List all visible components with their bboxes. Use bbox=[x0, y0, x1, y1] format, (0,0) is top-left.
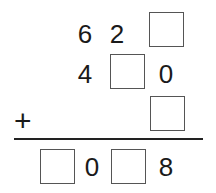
addend1-tens-digit: 2 bbox=[108, 21, 126, 47]
addend2-ones-digit: 0 bbox=[157, 61, 175, 87]
addend3-ones-blank-box[interactable] bbox=[150, 96, 185, 131]
addend1-hundreds-digit: 6 bbox=[76, 21, 94, 47]
result-tens-blank-box[interactable] bbox=[111, 149, 146, 184]
addend1-ones-blank-box[interactable] bbox=[149, 12, 184, 47]
result-thousands-blank-box[interactable] bbox=[40, 149, 75, 184]
result-ones-digit: 8 bbox=[157, 154, 175, 180]
sum-line-divider bbox=[14, 138, 203, 140]
plus-sign: + bbox=[14, 106, 32, 136]
addend2-tens-blank-box[interactable] bbox=[110, 54, 145, 89]
addend2-hundreds-digit: 4 bbox=[76, 61, 94, 87]
result-hundreds-digit: 0 bbox=[83, 154, 101, 180]
